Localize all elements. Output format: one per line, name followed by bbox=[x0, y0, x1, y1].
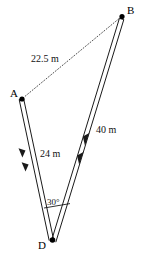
length-label-ab: 22.5 m bbox=[31, 53, 59, 64]
vertex-label-d: D bbox=[38, 239, 46, 251]
diagram-canvas: A B D 22.5 m 24 m 40 m 30° bbox=[0, 0, 143, 254]
edge-ad-line-left bbox=[19, 100, 49, 241]
angle-label-d: 30° bbox=[47, 197, 60, 207]
length-label-bd: 40 m bbox=[96, 124, 117, 135]
geometry-diagram: A B D 22.5 m 24 m 40 m 30° bbox=[0, 0, 143, 254]
edge-ad-arrowhead-upper bbox=[19, 148, 26, 157]
vertex-dot-a bbox=[19, 96, 24, 101]
edge-ad-arrowhead-lower bbox=[22, 162, 29, 171]
vertex-label-b: B bbox=[127, 4, 134, 16]
vertex-dot-d bbox=[50, 237, 56, 243]
vertex-dot-b bbox=[119, 14, 124, 19]
edge-ad-line-right bbox=[24, 99, 54, 240]
length-label-ad: 24 m bbox=[40, 148, 61, 159]
vertex-label-a: A bbox=[10, 87, 18, 99]
